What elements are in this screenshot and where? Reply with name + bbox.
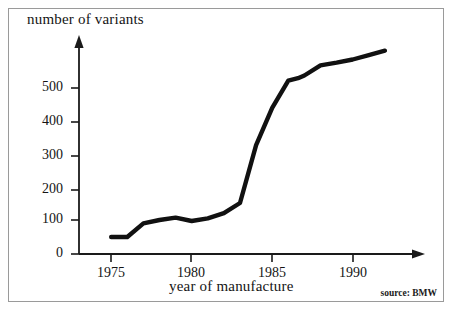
chart-plot-area: 500 400 300 200 100 0 1975 1980 1985 199… bbox=[9, 9, 445, 303]
y-tick-label-500: 500 bbox=[17, 79, 63, 95]
y-tick-label-400: 400 bbox=[17, 113, 63, 129]
y-axis-ticks bbox=[71, 88, 79, 254]
y-tick-label-200: 200 bbox=[17, 181, 63, 197]
x-axis-title: year of manufacture bbox=[169, 278, 294, 295]
axis-lines bbox=[74, 35, 425, 259]
figure-frame: 500 400 300 200 100 0 1975 1980 1985 199… bbox=[8, 8, 444, 302]
data-series-line bbox=[111, 51, 385, 237]
y-tick-label-0: 0 bbox=[17, 245, 63, 261]
source-note: source: BMW bbox=[380, 288, 437, 298]
line-chart-canvas bbox=[9, 9, 445, 303]
x-tick-label-1975: 1975 bbox=[87, 265, 135, 281]
x-axis-ticks bbox=[111, 254, 353, 262]
y-tick-label-300: 300 bbox=[17, 147, 63, 163]
y-axis-arrowhead bbox=[74, 35, 83, 48]
x-tick-label-1990: 1990 bbox=[329, 265, 377, 281]
x-axis-arrowhead bbox=[412, 249, 425, 258]
y-axis-title: number of variants bbox=[27, 11, 144, 28]
y-tick-label-100: 100 bbox=[17, 211, 63, 227]
